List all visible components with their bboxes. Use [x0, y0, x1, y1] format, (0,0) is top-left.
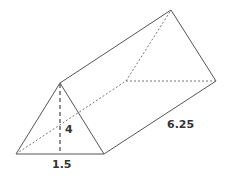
- hidden-edges: [16, 10, 216, 154]
- top-edge: [60, 10, 171, 83]
- triangular-prism-diagram: 4 1.5 6.25: [0, 0, 226, 176]
- base-label: 1.5: [52, 158, 72, 171]
- bottom-right-edge: [104, 81, 216, 154]
- hidden-back-left-slant-edge: [126, 10, 171, 81]
- back-right-slant-edge: [171, 10, 216, 81]
- hidden-bottom-left-edge: [16, 81, 126, 154]
- height-label: 4: [65, 123, 73, 136]
- length-label: 6.25: [167, 118, 194, 131]
- visible-edges: [16, 10, 216, 154]
